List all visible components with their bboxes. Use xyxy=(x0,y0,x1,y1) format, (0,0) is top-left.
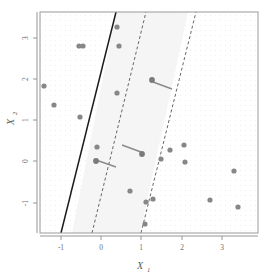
data-point xyxy=(150,196,155,201)
data-point xyxy=(207,197,212,202)
y-tick-label: -1 xyxy=(21,200,30,206)
y-tick-label: 0 xyxy=(21,159,30,163)
data-point xyxy=(114,90,119,95)
x-tick-label: 0 xyxy=(99,243,103,252)
data-point xyxy=(41,83,46,88)
y-axis-title-text: X xyxy=(5,118,16,126)
data-point xyxy=(235,204,240,209)
y-tick-label: 1 xyxy=(21,118,30,122)
svm-maximal-margin-figure: -1 0 1 2 3 -1 0 1 2 3 X 1 X 2 xyxy=(0,0,273,278)
y-tick-label: 2 xyxy=(21,77,30,81)
x-tick-label: 3 xyxy=(220,243,224,252)
data-point xyxy=(142,221,147,226)
x-tick-label: 1 xyxy=(139,243,143,252)
data-point xyxy=(158,156,163,161)
data-point xyxy=(51,102,56,107)
y-tick-label: 3 xyxy=(21,36,30,40)
support-vector xyxy=(149,77,155,83)
data-point xyxy=(114,24,119,29)
data-point xyxy=(181,142,186,147)
x-axis-title-subscript: 1 xyxy=(147,266,150,273)
x-axis-title-text: X xyxy=(136,260,144,271)
data-point xyxy=(77,114,82,119)
data-point xyxy=(231,168,236,173)
data-point xyxy=(182,159,187,164)
data-point xyxy=(80,43,85,48)
plot-canvas: -1 0 1 2 3 -1 0 1 2 3 X 1 X 2 xyxy=(0,0,273,278)
data-point xyxy=(127,188,132,193)
data-point xyxy=(94,144,99,149)
data-point xyxy=(143,199,148,204)
support-vector xyxy=(139,151,145,157)
data-point xyxy=(167,147,172,152)
x-tick-label: 2 xyxy=(180,243,184,252)
data-point xyxy=(116,43,121,48)
support-vector xyxy=(93,158,99,164)
x-tick-label: -1 xyxy=(58,243,64,252)
